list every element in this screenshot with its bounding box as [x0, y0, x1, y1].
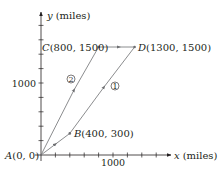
- coordinate-diagram: 1000 1000 x(miles) y(miles) A(0, 0) B(: [0, 0, 220, 170]
- route-1-number: 1: [112, 82, 117, 91]
- point-b-dot: [69, 132, 72, 135]
- route-2-marker: 2: [67, 75, 75, 84]
- point-d-dot: [133, 46, 136, 49]
- route-2: [41, 47, 135, 155]
- y-axis-title: y(miles): [46, 10, 90, 21]
- point-b-label: B(400, 300): [73, 128, 134, 139]
- x-axis-title: x(miles): [174, 150, 217, 161]
- point-c-label: C(800, 1500): [42, 42, 108, 53]
- x-tick-label-1000: 1000: [101, 157, 125, 168]
- point-d-label: D(1300, 1500): [137, 42, 211, 53]
- route-1-marker: 1: [111, 82, 119, 91]
- route-1: [41, 47, 135, 155]
- route-2-number: 2: [68, 75, 73, 84]
- y-tick-label-1000: 1000: [12, 78, 36, 89]
- point-a-label: A(0, 0): [4, 150, 39, 161]
